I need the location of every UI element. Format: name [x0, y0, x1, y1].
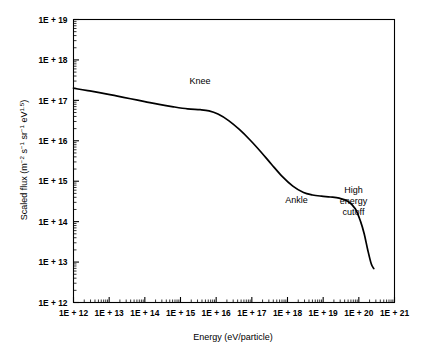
- y-axis-title-mid-3: eV: [19, 111, 29, 125]
- x-tick-label: 1E + 21: [380, 308, 409, 318]
- y-tick-label: 1E + 13: [38, 257, 67, 267]
- annotation-knee: Knee: [190, 76, 211, 86]
- x-tick-label: 1E + 16: [202, 308, 231, 318]
- x-tick-label: 1E + 13: [95, 308, 124, 318]
- x-tick-label: 1E + 20: [344, 308, 373, 318]
- y-tick-label: 1E + 18: [38, 55, 67, 65]
- y-tick-label: 1E + 17: [38, 96, 67, 106]
- y-tick-label: 1E + 19: [38, 15, 67, 25]
- x-tick-label: 1E + 19: [309, 308, 338, 318]
- x-tick-label: 1E + 15: [166, 308, 195, 318]
- x-tick-label: 1E + 14: [130, 308, 159, 318]
- x-axis-title: Energy (eV/particle): [193, 332, 273, 342]
- y-tick-label: 1E + 14: [38, 217, 67, 227]
- x-tick-label: 1E + 12: [59, 308, 88, 318]
- y-axis-title-suffix: ): [19, 100, 29, 103]
- y-tick-label: 1E + 16: [38, 136, 67, 146]
- chart-figure: 1E + 121E + 131E + 141E + 151E + 161E + …: [0, 0, 431, 351]
- cosmic-ray-spectrum-chart: 1E + 121E + 131E + 141E + 151E + 161E + …: [0, 0, 431, 351]
- y-axis-title-mid-2: sr: [19, 132, 29, 142]
- y-axis-title-prefix: Scaled flux (m: [19, 163, 29, 220]
- y-tick-label: 1E + 12: [38, 298, 67, 308]
- annotation-ankle: Ankle: [285, 195, 308, 205]
- x-tick-label: 1E + 17: [237, 308, 266, 318]
- y-tick-label: 1E + 15: [38, 176, 67, 186]
- x-tick-label: 1E + 18: [273, 308, 302, 318]
